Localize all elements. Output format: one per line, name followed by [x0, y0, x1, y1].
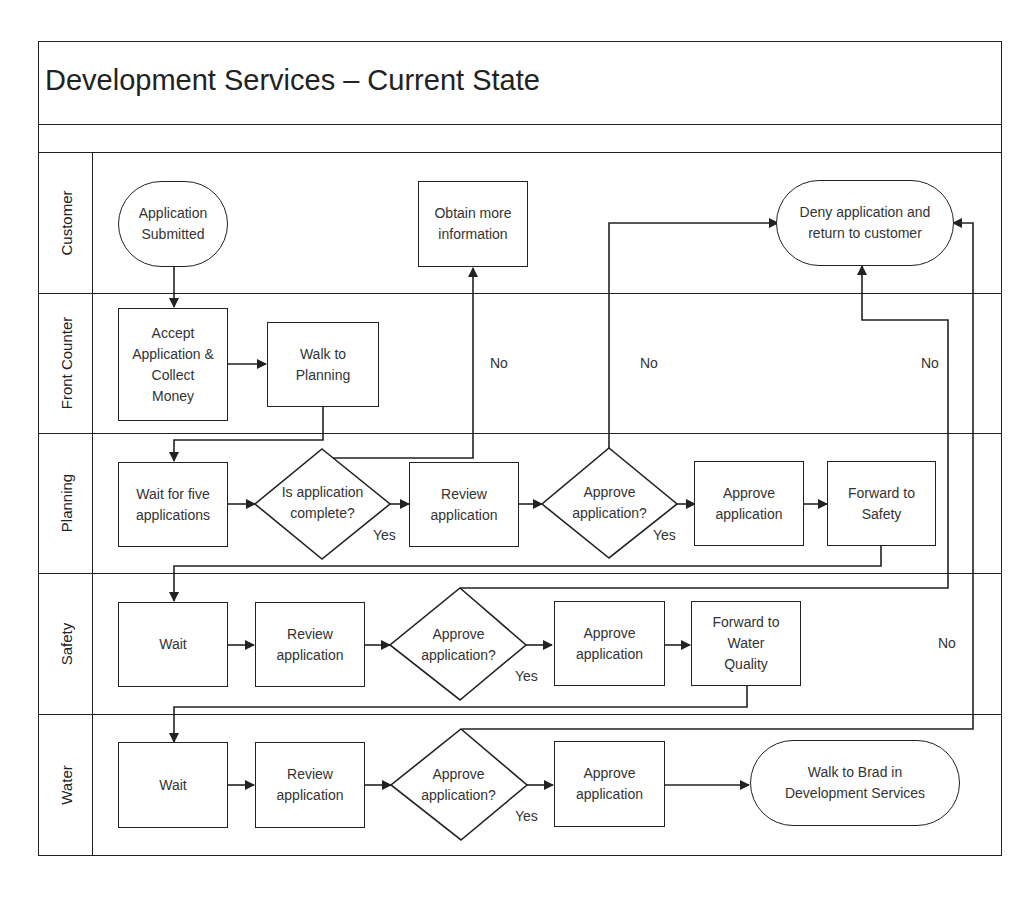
edge-label-complete-no: No [490, 355, 508, 371]
decision-text-water-approve: Approve application? [391, 762, 526, 808]
node-forward-to-water: Forward to Water Quality [691, 601, 801, 686]
edge-label-planning-yes: Yes [653, 527, 676, 543]
node-walk-to-brad: Walk to Brad in Development Services [750, 740, 960, 826]
node-safety-approve: Approve application [554, 601, 665, 686]
node-walk-to-planning: Walk to Planning [267, 322, 379, 407]
decision-text-safety-approve: Approve application? [391, 622, 526, 668]
decision-text-planning-approve: Approve application? [542, 480, 677, 526]
node-water-review: Review application [255, 742, 365, 828]
node-application-submitted: Application Submitted [118, 181, 228, 267]
edge-label-planning-no: No [640, 355, 658, 371]
node-wait-for-five: Wait for five applications [118, 462, 228, 547]
swimlane-diagram: Development Services – Current State Cus… [0, 0, 1035, 898]
node-obtain-more-information: Obtain more information [418, 181, 528, 267]
node-planning-approve: Approve application [694, 461, 804, 546]
node-planning-review: Review application [409, 462, 519, 547]
edge-label-water-no: No [938, 635, 956, 651]
node-safety-wait: Wait [118, 602, 228, 687]
edge-label-safety-no: No [921, 355, 939, 371]
node-water-approve: Approve application [554, 741, 665, 827]
node-deny-application: Deny application and return to customer [776, 180, 954, 266]
edge-label-complete-yes: Yes [373, 527, 396, 543]
node-forward-to-safety: Forward to Safety [827, 461, 936, 546]
node-accept-application: Accept Application & Collect Money [118, 308, 228, 421]
edge-label-water-yes: Yes [515, 808, 538, 824]
node-water-wait: Wait [118, 742, 228, 828]
node-safety-review: Review application [255, 602, 365, 687]
decision-text-is-complete: Is application complete? [255, 480, 390, 526]
edge-label-safety-yes: Yes [515, 668, 538, 684]
